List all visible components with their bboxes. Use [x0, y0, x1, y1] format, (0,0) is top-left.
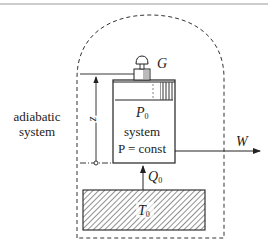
- work-label: W: [236, 135, 248, 149]
- environment-label: adiabatic system: [11, 110, 63, 138]
- reservoir-symbol: T: [138, 203, 146, 218]
- environment-label-line2: system: [11, 125, 63, 138]
- heat-label: Q0: [148, 170, 162, 185]
- system-pressure-label: P0: [136, 106, 149, 121]
- weight-label: G: [157, 57, 167, 71]
- heat-symbol: Q: [148, 169, 158, 184]
- system-pressure-subscript: 0: [145, 112, 149, 121]
- constraint-label: P = const: [118, 142, 166, 155]
- weight-knob: [136, 56, 148, 64]
- system-pressure-symbol: P: [136, 105, 145, 120]
- weight-shading: [143, 70, 149, 79]
- reservoir-subscript: 0: [146, 210, 150, 219]
- heat-subscript: 0: [158, 176, 162, 185]
- system-label: system: [124, 125, 160, 138]
- z-origin-marker: [94, 161, 98, 165]
- reservoir-label: T0: [138, 204, 150, 219]
- environment-label-line1: adiabatic: [11, 110, 63, 123]
- height-label: z: [88, 116, 100, 123]
- piston-shading: [160, 82, 174, 100]
